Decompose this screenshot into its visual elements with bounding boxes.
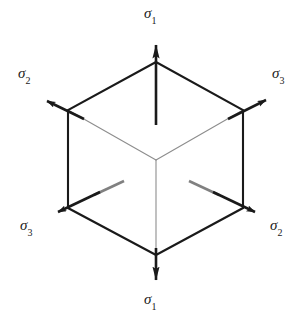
axis-label-sigma3-lower-left: σ3 <box>20 218 32 236</box>
arrow-sigma3-upper-right <box>228 100 266 119</box>
sigma-subscript: 2 <box>25 75 30 86</box>
sigma-subscript: 3 <box>27 227 32 238</box>
axis-label-sigma2-lower-right: σ2 <box>270 218 282 236</box>
axis-label-sigma2-upper-left: σ2 <box>18 66 30 84</box>
axis-label-sigma3-upper-right: σ3 <box>272 66 284 84</box>
axis-label-sigma1-bottom: σ1 <box>144 292 156 310</box>
arrow-sigma2-lower-right-shaft <box>213 192 255 212</box>
sigma-subscript: 2 <box>277 227 282 238</box>
axis-label-sigma1-top: σ1 <box>144 6 156 24</box>
cube-interior-edges <box>68 110 243 255</box>
arrow-sigma2-lower-right <box>189 181 255 212</box>
stress-cube-diagram <box>0 0 308 324</box>
sigma-subscript: 3 <box>279 75 284 86</box>
sigma-subscript: 1 <box>151 15 156 26</box>
arrow-sigma3-lower-left-shaft <box>58 192 100 212</box>
sigma-subscript: 1 <box>151 301 156 312</box>
